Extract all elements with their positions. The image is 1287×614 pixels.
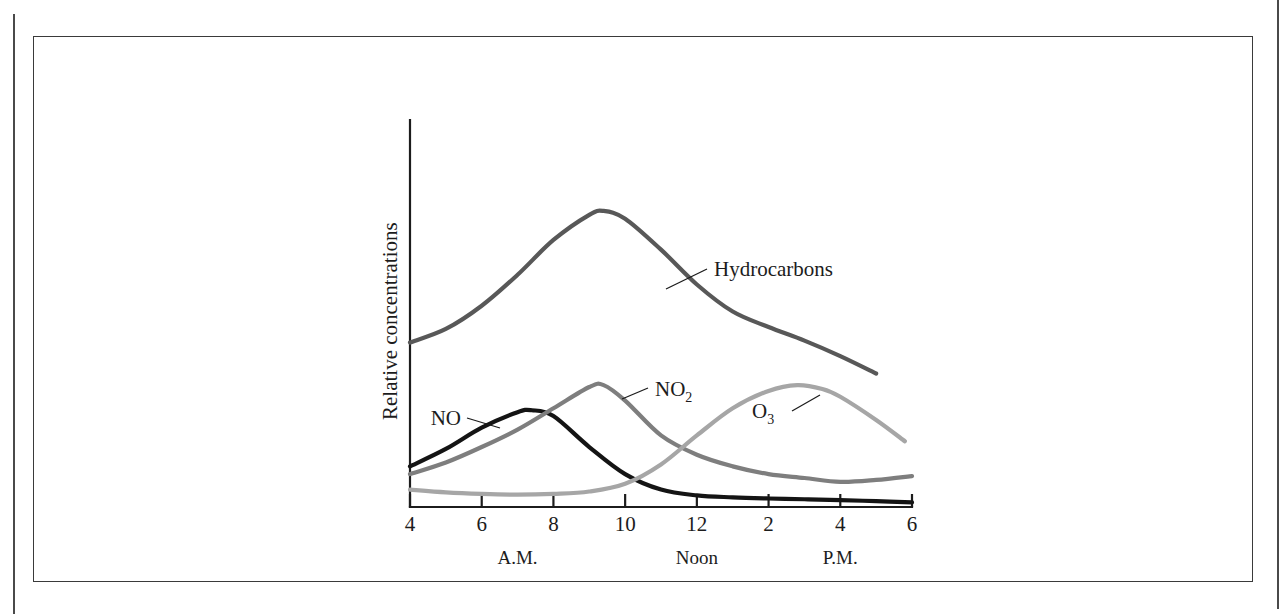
- x-axis-tick-label: 8: [548, 512, 559, 536]
- series-line-hydrocarbons: [410, 211, 876, 374]
- series-label-no: NO: [431, 406, 461, 430]
- series-line-o3: [410, 385, 905, 495]
- series-label-no2: NO2: [655, 377, 692, 405]
- data-series-group: [410, 211, 912, 503]
- x-axis-tick-label: 12: [686, 512, 707, 536]
- series-label-hydrocarbons: Hydrocarbons: [714, 257, 833, 281]
- x-axis-tick-label: 10: [615, 512, 636, 536]
- o3-base: O: [752, 399, 767, 423]
- o3-subscript: 3: [767, 412, 774, 427]
- x-axis-period-label: Noon: [676, 547, 719, 568]
- x-axis-tick-labels: 4681012246: [405, 512, 918, 536]
- x-axis-period-label: P.M.: [823, 547, 858, 568]
- x-axis-tick-label: 2: [763, 512, 774, 536]
- x-axis-period-labels: A.M.NoonP.M.: [498, 547, 858, 568]
- no2-leader-line: [622, 388, 648, 399]
- x-axis-tick-label: 4: [405, 512, 416, 536]
- y-axis-title: Relative concentrations: [378, 222, 402, 420]
- no2-base: NO: [655, 377, 685, 401]
- series-label-o3: O3: [752, 399, 774, 427]
- x-axis-tick-label: 6: [476, 512, 487, 536]
- x-axis-tick-label: 6: [907, 512, 918, 536]
- o3-leader-line: [792, 395, 820, 411]
- no2-subscript: 2: [685, 390, 692, 405]
- x-axis-period-label: A.M.: [498, 547, 538, 568]
- x-axis-tick-label: 4: [835, 512, 846, 536]
